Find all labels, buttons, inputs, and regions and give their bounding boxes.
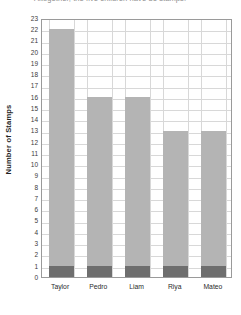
x-axis-tick-labels: TaylorPedroLiamRiyaMateo	[0, 0, 241, 315]
bar-chart: Number of Stamps 01234567891011121314151…	[0, 0, 241, 315]
x-axis-tick-label: Mateo	[183, 283, 241, 291]
